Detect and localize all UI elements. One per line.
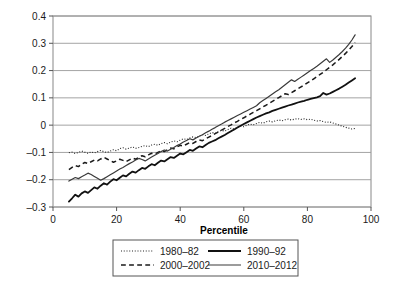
y-axis-ticks <box>49 16 53 207</box>
y-tick-label: 0.2 <box>32 65 46 76</box>
plot-background <box>53 16 371 207</box>
x-tick-label: 0 <box>50 214 56 225</box>
x-axis-tick-labels: 020406080100 <box>50 214 380 225</box>
x-tick-label: 20 <box>111 214 123 225</box>
legend-label-1: 1990–92 <box>247 246 286 257</box>
y-tick-label: 0 <box>40 120 46 131</box>
x-tick-label: 80 <box>302 214 314 225</box>
y-axis-tick-labels: –0.3–0.2–0.100.10.20.30.4 <box>27 11 47 213</box>
legend-label-0: 1980–82 <box>160 246 199 257</box>
x-axis-ticks <box>53 207 371 211</box>
y-tick-label: –0.3 <box>27 202 47 213</box>
y-tick-label: 0.4 <box>32 11 46 22</box>
x-axis-title: Percentile <box>200 225 248 236</box>
y-tick-label: –0.2 <box>27 174 47 185</box>
x-tick-label: 100 <box>363 214 380 225</box>
x-tick-label: 40 <box>175 214 187 225</box>
y-tick-label: –0.1 <box>27 147 47 158</box>
legend-label-3: 2010–2012 <box>247 260 297 271</box>
chart-legend: 1980–822000–20021990–922010–2012 <box>113 240 298 276</box>
x-tick-label: 60 <box>238 214 250 225</box>
chart-figure: –0.3–0.2–0.100.10.20.30.4 020406080100 P… <box>0 0 408 281</box>
y-tick-label: 0.3 <box>32 38 46 49</box>
legend-label-2: 2000–2002 <box>160 260 210 271</box>
y-tick-label: 0.1 <box>32 92 46 103</box>
line-chart: –0.3–0.2–0.100.10.20.30.4 020406080100 P… <box>0 0 408 281</box>
